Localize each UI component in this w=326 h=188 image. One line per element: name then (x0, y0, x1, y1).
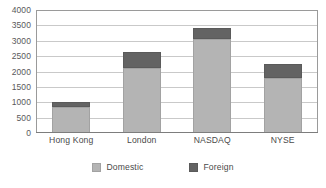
legend-label: Foreign (203, 163, 233, 172)
bar-segment-foreign (193, 28, 231, 39)
stacked-bar-chart: 40003500300025002000150010005000 Hong Ko… (0, 0, 326, 188)
y-axis: 40003500300025002000150010005000 (0, 10, 34, 133)
x-tick-label: Hong Kong (49, 136, 93, 145)
y-tick-label: 500 (17, 113, 31, 122)
legend-item-foreign: Foreign (189, 163, 233, 172)
y-tick-label: 3000 (12, 37, 31, 46)
legend-item-domestic: Domestic (92, 163, 143, 172)
foreign-swatch (189, 163, 198, 172)
x-axis-line (36, 132, 318, 133)
y-tick-label: 1000 (12, 98, 31, 107)
chart-legend: DomesticForeign (0, 163, 326, 172)
bar-segment-foreign (123, 52, 161, 69)
bar-stack (264, 64, 302, 133)
x-tick-label: NYSE (271, 136, 295, 145)
legend-label: Domestic (106, 163, 143, 172)
x-axis: Hong KongLondonNASDAQNYSE (36, 136, 318, 152)
domestic-swatch (92, 163, 101, 172)
bars-layer (36, 10, 318, 133)
bar-segment-domestic (264, 78, 302, 133)
y-tick-label: 2500 (12, 52, 31, 61)
bar-stack (193, 28, 231, 133)
bar-segment-domestic (193, 39, 231, 133)
y-tick-label: 4000 (12, 6, 31, 15)
y-tick-label: 0 (26, 129, 31, 138)
bar-stack (52, 102, 90, 133)
bar-stack (123, 52, 161, 133)
y-tick-label: 1500 (12, 83, 31, 92)
bar-segment-foreign (52, 102, 90, 107)
bar-segment-foreign (264, 64, 302, 78)
x-tick-label: London (127, 136, 157, 145)
y-tick-label: 2000 (12, 67, 31, 76)
plot-area (36, 10, 318, 133)
bar-segment-domestic (52, 107, 90, 133)
y-tick-label: 3500 (12, 21, 31, 30)
bar-segment-domestic (123, 68, 161, 133)
x-tick-label: NASDAQ (194, 136, 231, 145)
